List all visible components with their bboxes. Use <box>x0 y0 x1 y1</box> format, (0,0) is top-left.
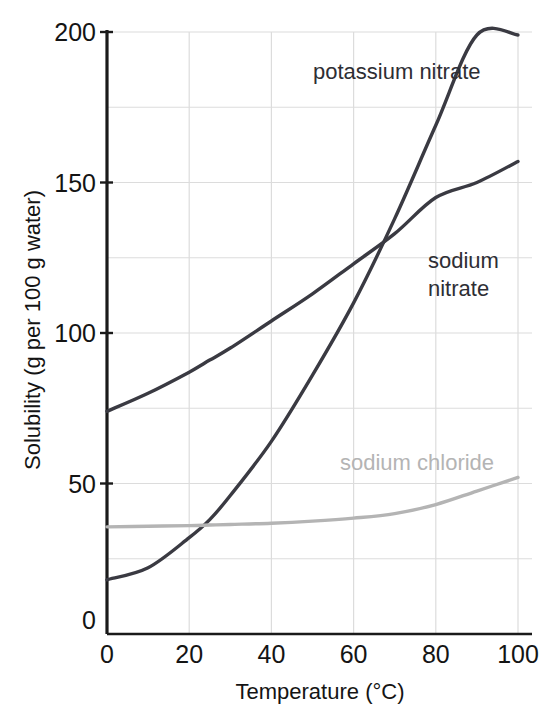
x-axis-title: Temperature (°C) <box>236 679 405 704</box>
x-axis-tick-label: 0 <box>100 640 114 668</box>
y-axis-tick-label: 100 <box>54 319 96 347</box>
x-axis-tick-label: 20 <box>175 640 203 668</box>
series-label-sodium-chloride: sodium chloride <box>340 450 494 475</box>
x-axis-tick-label: 60 <box>340 640 368 668</box>
y-axis-origin-label: 0 <box>82 606 96 634</box>
y-axis-tick-label: 50 <box>68 470 96 498</box>
series-label-sodium-nitrate-line1: sodium <box>428 248 499 273</box>
y-axis-title: Solubility (g per 100 g water) <box>20 190 45 470</box>
x-axis-tick-label: 40 <box>257 640 285 668</box>
series-label-sodium-nitrate-line2: nitrate <box>428 276 489 301</box>
y-axis-tick-label: 150 <box>54 169 96 197</box>
y-axis-tick-label: 200 <box>54 18 96 46</box>
solubility-chart-figure: 50100150200 020406080100 0 Temperature (… <box>0 0 558 714</box>
x-axis-tick-label: 80 <box>422 640 450 668</box>
chart-canvas: 50100150200 020406080100 0 Temperature (… <box>0 0 558 714</box>
x-axis-tick-label: 100 <box>497 640 539 668</box>
series-label-potassium-nitrate: potassium nitrate <box>313 59 481 84</box>
